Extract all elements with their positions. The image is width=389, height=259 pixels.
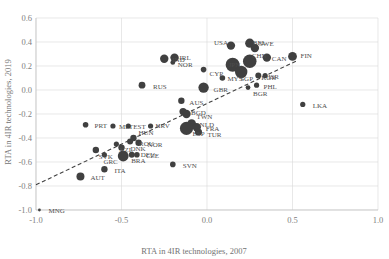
y-tick-label: -0.4 bbox=[19, 133, 33, 143]
data-point-label: NOR bbox=[178, 61, 193, 69]
data-point bbox=[160, 55, 168, 63]
scatter-chart: MNGAUTITASVKBRADNKDEUCZEGRCNZLROUNORHUNP… bbox=[0, 0, 389, 259]
data-point bbox=[178, 98, 184, 104]
data-point-label: CYP bbox=[210, 70, 224, 78]
data-point-label: CZE bbox=[146, 152, 159, 160]
data-point bbox=[148, 123, 153, 128]
x-tick-label: 0.0 bbox=[202, 215, 213, 225]
data-point-label: TUR bbox=[207, 131, 221, 139]
x-tick-label: 0.5 bbox=[287, 215, 298, 225]
data-point bbox=[180, 122, 193, 135]
data-point-label: MLT bbox=[119, 123, 134, 131]
data-point-label: IRL bbox=[180, 54, 191, 62]
chart-canvas: MNGAUTITASVKBRADNKDEUCZEGRCNZLROUNORHUNP… bbox=[0, 0, 389, 259]
data-point bbox=[139, 82, 146, 89]
data-point-label: BGR bbox=[253, 90, 268, 98]
data-point bbox=[130, 135, 136, 141]
data-point-label: NZL bbox=[119, 146, 133, 154]
x-tick-label: 1.0 bbox=[373, 215, 384, 225]
data-point bbox=[101, 166, 107, 172]
data-point-label: CHN bbox=[252, 52, 267, 60]
data-point bbox=[170, 162, 176, 168]
data-point bbox=[227, 41, 235, 49]
y-tick-label: -0.2 bbox=[19, 109, 32, 119]
data-point-label: FIN bbox=[301, 52, 312, 60]
data-point-label: ITA bbox=[114, 167, 125, 175]
data-point-label: PRT bbox=[95, 122, 108, 130]
data-point-label: LKA bbox=[313, 102, 327, 110]
data-point-label: USA bbox=[214, 39, 228, 47]
data-point-label: GRC bbox=[103, 158, 118, 166]
data-point bbox=[83, 122, 89, 128]
x-axis-title: RTA in 4IR technologies, 2007 bbox=[141, 246, 246, 256]
data-point bbox=[246, 85, 251, 90]
data-point-label: HRV bbox=[156, 122, 170, 130]
data-point bbox=[110, 123, 115, 128]
data-point-label: NOR bbox=[148, 141, 163, 149]
data-point bbox=[254, 83, 259, 88]
data-point-label: GBR bbox=[214, 86, 229, 94]
data-point bbox=[38, 209, 41, 212]
y-tick-label: 0.2 bbox=[21, 61, 32, 71]
data-point-label: MYS bbox=[227, 75, 242, 83]
x-tick-label: -0.5 bbox=[115, 215, 128, 225]
data-point-label: RUS bbox=[153, 83, 167, 91]
data-point-label: SVN bbox=[183, 162, 197, 170]
data-point bbox=[288, 52, 297, 61]
data-point-label: AUS bbox=[189, 99, 203, 107]
y-tick-label: 0.0 bbox=[21, 85, 32, 95]
data-point-label: EST bbox=[133, 123, 146, 131]
data-point bbox=[201, 67, 207, 73]
data-point bbox=[182, 110, 190, 118]
y-tick-label: -1.0 bbox=[19, 205, 32, 215]
data-point-label: ESP bbox=[192, 130, 204, 138]
data-point bbox=[198, 82, 208, 92]
data-point bbox=[300, 102, 305, 107]
y-axis-title: RTA in 4IR technologies, 2019 bbox=[3, 59, 13, 164]
y-tick-label: -0.6 bbox=[19, 157, 32, 167]
data-points bbox=[38, 39, 305, 212]
data-point-label: AUT bbox=[90, 174, 105, 182]
data-point bbox=[76, 172, 84, 180]
data-point-label: MNG bbox=[48, 207, 64, 215]
data-point-label: SWE bbox=[259, 40, 274, 48]
x-tick-label: -1.0 bbox=[29, 215, 42, 225]
y-tick-label: 0.6 bbox=[21, 13, 32, 23]
y-tick-label: -0.8 bbox=[19, 181, 32, 191]
data-point-label: CAN bbox=[272, 55, 287, 63]
data-point-label: JPN bbox=[229, 61, 241, 69]
data-point-label: ISR bbox=[268, 73, 279, 81]
data-point bbox=[114, 141, 119, 146]
y-tick-label: 0.4 bbox=[21, 37, 32, 47]
